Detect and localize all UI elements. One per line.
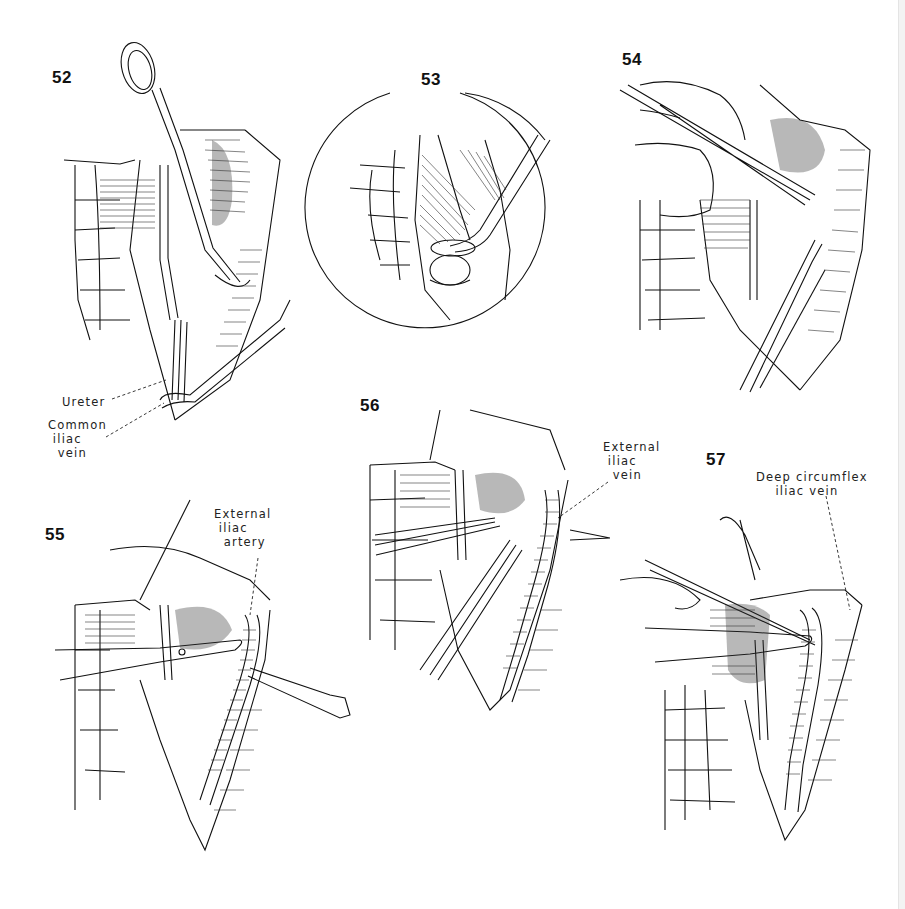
figure-54-illustration	[600, 0, 898, 400]
figure-53-inset-illustration	[310, 80, 570, 340]
figure-52: 52	[0, 0, 300, 450]
label-ureter: Ureter	[62, 395, 105, 409]
figure-54: 54	[600, 0, 898, 400]
figure-57-illustration	[600, 440, 898, 900]
page-edge	[898, 0, 905, 909]
figure-55: 55 Externa	[0, 480, 360, 900]
figure-number-53: 53	[417, 70, 445, 90]
label-common-iliac-vein: Common iliac vein	[48, 418, 107, 460]
figure-52-illustration	[0, 0, 300, 450]
figure-55-illustration	[0, 480, 360, 900]
label-deep-circumflex-iliac-vein: Deep circumflex iliac vein	[756, 470, 868, 498]
figure-53: 53	[310, 80, 570, 340]
figure-56: 56 External ilia	[340, 390, 640, 730]
figure-57: 57	[600, 440, 898, 900]
figure-56-illustration	[340, 390, 640, 730]
label-external-iliac-artery: External iliac artery	[214, 507, 271, 549]
